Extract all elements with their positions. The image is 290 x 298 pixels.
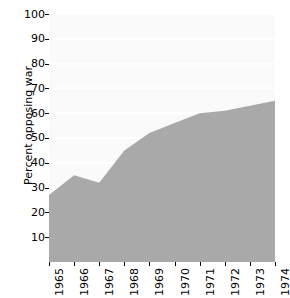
x-tick-mark	[74, 262, 75, 266]
x-tick-mark	[200, 262, 201, 266]
x-tick-mark	[275, 262, 276, 266]
x-tick-label: 1969	[153, 268, 166, 296]
x-tick-mark	[175, 262, 176, 266]
x-tick-mark	[225, 262, 226, 266]
x-tick-label: 1967	[103, 268, 116, 296]
x-tick-label: 1974	[279, 268, 290, 296]
x-tick-label: 1973	[254, 268, 267, 296]
x-tick-label: 1968	[128, 268, 141, 296]
x-tick-label: 1965	[53, 268, 66, 296]
x-tick-mark	[124, 262, 125, 266]
x-tick-mark	[149, 262, 150, 266]
x-tick-label: 1970	[179, 268, 192, 296]
x-tick-label: 1966	[78, 268, 91, 296]
x-tick-mark	[49, 262, 50, 266]
x-tick-label: 1971	[204, 268, 217, 296]
x-tick-label: 1972	[229, 268, 242, 296]
x-tick-mark	[99, 262, 100, 266]
x-axis-ticks: 1965 1966 1967 1968 1969 1970 1971 1972 …	[0, 0, 290, 298]
area-chart: Percent opposing war 100 90 80 70 60 50 …	[0, 0, 290, 298]
x-tick-mark	[250, 262, 251, 266]
